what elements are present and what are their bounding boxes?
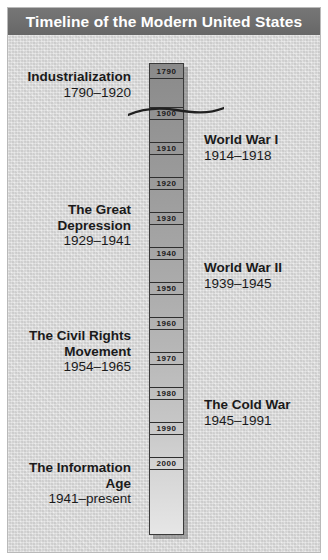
timeline-year-label: 1790 <box>156 68 176 76</box>
timeline-year-label: 1960 <box>156 320 176 328</box>
timeline-year-marker: 1900 <box>150 107 183 120</box>
era-label: Industrialization1790–1920 <box>27 69 131 100</box>
timeline-year-label: 1990 <box>156 425 176 433</box>
era-name: World War II <box>204 260 282 276</box>
era-label: The Information Age1941–present <box>29 460 131 507</box>
timeline-year-marker: 1920 <box>150 177 183 190</box>
era-name: The Cold War <box>204 397 291 413</box>
timeline-year-label: 1980 <box>156 390 176 398</box>
timeline-year-marker: 1970 <box>150 352 183 365</box>
page-title: Timeline of the Modern United States <box>26 13 302 31</box>
era-name: The Information Age <box>29 460 131 491</box>
era-label: The Cold War1945–1991 <box>204 397 291 428</box>
timeline-year-marker: 1790 <box>150 66 183 79</box>
era-name: Industrialization <box>27 69 131 85</box>
timeline-year-label: 1910 <box>156 145 176 153</box>
timeline-year-label: 1930 <box>156 215 176 223</box>
era-dates: 1939–1945 <box>204 276 282 292</box>
timeline-year-label: 1900 <box>156 110 176 118</box>
era-name: World War I <box>204 132 278 148</box>
era-label: World War I1914–1918 <box>204 132 278 163</box>
timeline-column-body: 1790190019101920193019401950196019701980… <box>149 63 184 535</box>
era-name: The Civil Rights Movement <box>29 328 131 359</box>
timeline-year-label: 1950 <box>156 285 176 293</box>
timeline-year-label: 1970 <box>156 355 176 363</box>
era-dates: 1954–1965 <box>29 359 131 375</box>
timeline-year-label: 1940 <box>156 250 176 258</box>
timeline-column: 1790190019101920193019401950196019701980… <box>149 63 189 537</box>
timeline-year-marker: 1910 <box>150 142 183 155</box>
timeline-year-marker: 1950 <box>150 282 183 295</box>
era-label: The Civil Rights Movement1954–1965 <box>29 328 131 375</box>
poster-title-bar: Timeline of the Modern United States <box>8 8 320 35</box>
timeline-poster: Timeline of the Modern United States 179… <box>7 7 321 553</box>
era-label: The Great Depression1929–1941 <box>57 202 131 249</box>
era-dates: 1945–1991 <box>204 413 291 429</box>
timeline-year-marker: 1930 <box>150 212 183 225</box>
timeline-year-marker: 2000 <box>150 457 183 470</box>
era-dates: 1914–1918 <box>204 148 278 164</box>
era-label: World War II1939–1945 <box>204 260 282 291</box>
timeline-year-marker: 1960 <box>150 317 183 330</box>
timeline-year-marker: 1990 <box>150 422 183 435</box>
era-dates: 1790–1920 <box>27 85 131 101</box>
era-name: The Great Depression <box>57 202 131 233</box>
timeline-year-label: 1920 <box>156 180 176 188</box>
era-dates: 1941–present <box>29 491 131 507</box>
timeline-year-marker: 1940 <box>150 247 183 260</box>
era-dates: 1929–1941 <box>57 233 131 249</box>
timeline-year-label: 2000 <box>156 460 176 468</box>
timeline-year-marker: 1980 <box>150 387 183 400</box>
